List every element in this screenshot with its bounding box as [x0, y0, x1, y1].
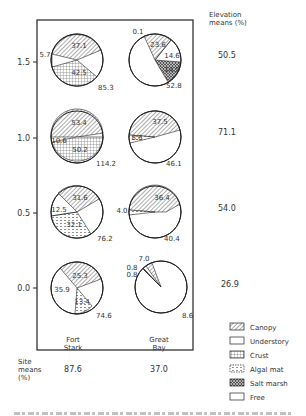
svg-text:Elevation: Elevation [209, 11, 242, 19]
pie-fort-stark-1.5: 37.1 5.7 42.5 85.3 [39, 34, 113, 92]
svg-text:46.1: 46.1 [166, 160, 182, 168]
elevation-means-column: Elevation means (%) 50.5 71.1 54.0 26.9 [209, 11, 247, 289]
svg-text:32.1: 32.1 [66, 221, 82, 229]
svg-text:87.6: 87.6 [64, 365, 82, 374]
svg-text:Crust: Crust [250, 352, 269, 360]
svg-text:53.4: 53.4 [71, 119, 87, 127]
svg-text:5.7: 5.7 [39, 51, 50, 59]
y-tick-label: 0.0 [17, 284, 30, 293]
pie-great-bay-1.5: 0.1 23.6 14.6 14.5 52.8 [129, 28, 182, 90]
svg-text:Stark: Stark [64, 344, 83, 352]
svg-text:(%): (%) [18, 374, 30, 382]
svg-text:37.5: 37.5 [152, 118, 168, 126]
y-tick-label: 1.0 [17, 134, 30, 143]
svg-text:76.2: 76.2 [97, 235, 113, 243]
svg-text:71.1: 71.1 [218, 128, 236, 137]
svg-text:12.5: 12.5 [51, 206, 67, 214]
legend-swatch-crust [230, 351, 244, 358]
pie-fort-stark-0.0: 25.3 35.9 13.4 74.6 [51, 262, 112, 320]
legend-swatch-algal-mat [230, 365, 244, 372]
legend-swatch-salt-marsh [230, 379, 244, 386]
svg-text:14.5: 14.5 [164, 66, 180, 74]
svg-text:Algal mat: Algal mat [250, 366, 284, 374]
svg-text:31.6: 31.6 [72, 194, 88, 202]
legend-swatch-free [230, 393, 244, 400]
svg-text:0.1: 0.1 [132, 28, 143, 36]
legend: Canopy Understory Crust Algal mat Salt m… [230, 323, 289, 402]
y-axis: 1.5 1.0 0.5 0.0 [17, 58, 37, 293]
legend-swatch-canopy [230, 323, 244, 330]
svg-text:means: means [18, 366, 42, 374]
svg-text:50.5: 50.5 [218, 51, 236, 60]
svg-text:4.0: 4.0 [116, 207, 127, 215]
svg-text:40.4: 40.4 [164, 235, 180, 243]
svg-text:Canopy: Canopy [250, 324, 276, 332]
svg-text:23.6: 23.6 [150, 41, 166, 49]
svg-text:25.3: 25.3 [72, 272, 88, 280]
svg-text:35.9: 35.9 [54, 286, 70, 294]
svg-text:114.2: 114.2 [96, 160, 116, 168]
svg-text:26.9: 26.9 [221, 280, 239, 289]
svg-text:means (%): means (%) [209, 19, 247, 27]
svg-text:74.6: 74.6 [96, 312, 112, 320]
svg-text:7.0: 7.0 [138, 255, 149, 263]
y-tick-label: 1.5 [17, 58, 30, 67]
pie-great-bay-0.5: 36.4 4.0 40.4 [116, 185, 181, 243]
svg-text:Site: Site [18, 358, 31, 366]
svg-text:Free: Free [250, 394, 265, 402]
svg-text:54.0: 54.0 [218, 204, 236, 213]
svg-text:36.4: 36.4 [154, 194, 170, 202]
pie-chart-figure: 1.5 1.0 0.5 0.0 37.1 5.7 42.5 85.3 53.4 … [0, 0, 306, 416]
y-tick-label: 0.5 [17, 209, 30, 218]
svg-text:37.0: 37.0 [150, 365, 168, 374]
svg-text:Bay: Bay [152, 344, 165, 352]
svg-text:14.6: 14.6 [164, 52, 180, 60]
svg-text:52.8: 52.8 [166, 82, 182, 90]
svg-text:85.3: 85.3 [98, 84, 114, 92]
figure-caption-clipped [14, 408, 294, 416]
svg-text:8.6: 8.6 [182, 312, 194, 320]
pie-great-bay-0.0: 7.0 0.8 0.8 8.6 [126, 255, 193, 320]
svg-text:Salt marsh: Salt marsh [250, 380, 288, 388]
svg-text:0.8: 0.8 [126, 271, 137, 279]
svg-text:8.6: 8.6 [131, 134, 143, 142]
pie-fort-stark-1.0: 53.4 10.6 50.2 114.2 [51, 109, 116, 168]
legend-swatch-understory [230, 337, 244, 344]
svg-text:Great: Great [149, 336, 169, 344]
svg-text:Understory: Understory [250, 338, 289, 346]
svg-text:13.4: 13.4 [74, 298, 90, 306]
pie-great-bay-1.0: 37.5 8.6 46.1 [129, 111, 182, 168]
svg-text:42.5: 42.5 [71, 69, 87, 77]
svg-text:37.1: 37.1 [71, 42, 87, 50]
svg-text:10.6: 10.6 [51, 137, 67, 145]
svg-text:Fort: Fort [66, 336, 80, 344]
pie-fort-stark-0.5: 31.6 12.5 32.1 76.2 [51, 186, 113, 243]
site-means-row: Site means (%) 87.6 37.0 [18, 358, 168, 382]
svg-text:50.2: 50.2 [72, 146, 88, 154]
